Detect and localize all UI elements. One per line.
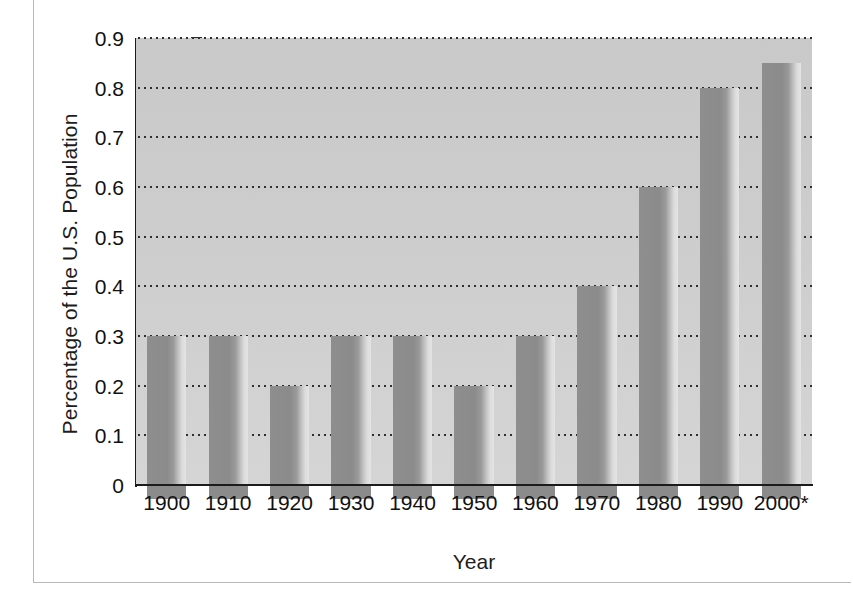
bar-slot: [700, 38, 739, 485]
x-axis-tick-labels: 1900191019201930194019501960197019801990…: [136, 492, 812, 522]
y-axis-tick-label: 0.2: [60, 375, 124, 396]
x-axis-tick-label: 1950: [443, 492, 504, 514]
bar: [209, 336, 248, 485]
x-axis-tick-label: 1900: [136, 492, 197, 514]
bar-series: [136, 38, 812, 485]
x-axis-tick-label: 1970: [566, 492, 627, 514]
y-axis-tick-label: 0.7: [60, 127, 124, 148]
x-axis-tick-label: 1960: [505, 492, 566, 514]
y-axis-tick-label: 0.5: [60, 226, 124, 247]
bar-slot: [209, 38, 248, 485]
x-axis-title: Year: [136, 550, 812, 574]
bar-chart-figure: Percentage of the U.S. Population 00.10.…: [0, 0, 853, 608]
y-axis-tick-label: 0.4: [60, 276, 124, 297]
y-axis-tick-label: 0: [60, 475, 124, 496]
x-axis-tick-label: 1930: [320, 492, 381, 514]
y-axis-tick-label: 0.1: [60, 425, 124, 446]
bar-slot: [331, 38, 370, 485]
bar: [270, 386, 309, 485]
bar-slot: [762, 38, 801, 485]
x-axis-tick-label: 1990: [689, 492, 750, 514]
bar: [331, 336, 370, 485]
y-axis-tick-label: 0.6: [60, 177, 124, 198]
bar: [454, 386, 493, 485]
bar-slot: [454, 38, 493, 485]
bar: [147, 336, 186, 485]
y-axis-tick-label: 0.3: [60, 326, 124, 347]
bar: [700, 88, 739, 485]
bar-slot: [393, 38, 432, 485]
bar-slot: [516, 38, 555, 485]
bar: [393, 336, 432, 485]
y-axis-tick-labels: 00.10.20.30.40.50.60.70.80.9: [60, 38, 124, 485]
plot-area: [136, 38, 812, 485]
bar-slot: [147, 38, 186, 485]
y-axis-tick-label: 0.8: [60, 77, 124, 98]
bar-slot: [270, 38, 309, 485]
x-axis-tick-label: 1910: [197, 492, 258, 514]
x-axis-tick-label: 1980: [628, 492, 689, 514]
x-axis-line: [136, 484, 813, 486]
x-axis-tick-label: 1920: [259, 492, 320, 514]
bar-slot: [577, 38, 616, 485]
x-axis-tick-label: 2000*: [751, 492, 812, 514]
bar: [516, 336, 555, 485]
bar: [762, 63, 801, 485]
y-axis-tick-label: 0.9: [60, 28, 124, 49]
bar-slot: [639, 38, 678, 485]
bar: [639, 187, 678, 485]
bar: [577, 286, 616, 485]
x-axis-tick-label: 1940: [382, 492, 443, 514]
